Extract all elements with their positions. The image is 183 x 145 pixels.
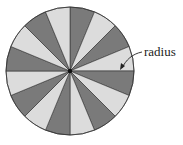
- circle-sectors-diagram: radius: [0, 0, 183, 145]
- radius-label: radius: [144, 44, 176, 59]
- center-point: [68, 69, 72, 73]
